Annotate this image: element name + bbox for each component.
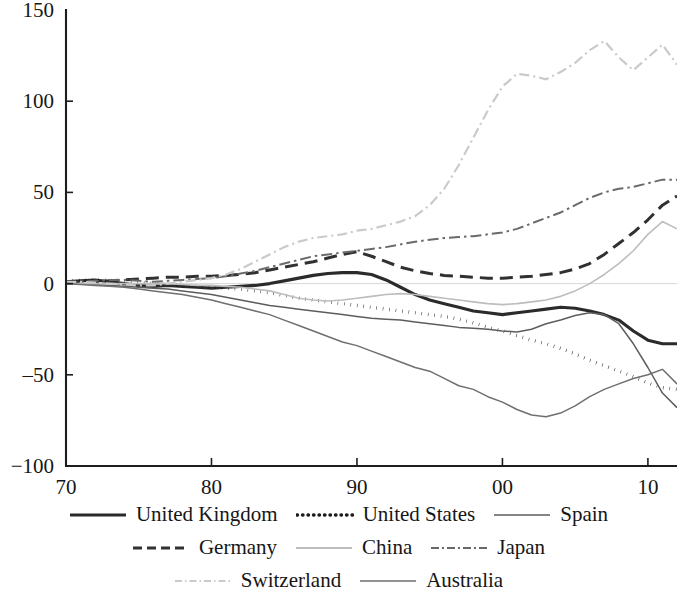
legend-entry[interactable]: Australia — [359, 570, 503, 591]
series-line — [66, 284, 677, 417]
legend-row: United KingdomUnited StatesSpain — [0, 498, 677, 531]
series-line — [66, 283, 677, 408]
y-tick-label: −100 — [11, 454, 54, 478]
legend-row: GermanyChinaJapan — [0, 531, 677, 564]
legend-swatch-icon — [493, 507, 551, 523]
legend-entry[interactable]: Switzerland — [174, 570, 341, 591]
legend-swatch-icon — [430, 540, 488, 556]
legend-row: SwitzerlandAustralia — [0, 564, 677, 597]
chart-axes — [66, 10, 677, 466]
legend-swatch-icon — [174, 573, 232, 589]
x-tick-label: 70 — [56, 475, 77, 499]
legend-label: Germany — [199, 537, 277, 558]
chart-legend: United KingdomUnited StatesSpainGermanyC… — [0, 498, 677, 608]
legend-swatch-icon — [296, 507, 354, 523]
legend-entry[interactable]: Germany — [132, 537, 277, 558]
legend-entry[interactable]: United Kingdom — [69, 504, 278, 525]
legend-label: Switzerland — [241, 570, 341, 591]
legend-swatch-icon — [69, 507, 127, 523]
legend-entry[interactable]: China — [295, 537, 412, 558]
legend-entry[interactable]: Spain — [493, 504, 608, 525]
x-tick-label: 00 — [492, 475, 513, 499]
y-tick-label: ‒50 — [22, 363, 55, 387]
x-tick-label: 90 — [346, 475, 367, 499]
legend-label: United Kingdom — [136, 504, 278, 525]
legend-label: United States — [363, 504, 476, 525]
legend-label: Australia — [426, 570, 503, 591]
legend-swatch-icon — [359, 573, 417, 589]
y-tick-label: 100 — [23, 89, 55, 113]
series-line — [66, 180, 677, 283]
chart-figure: 150100500‒50−1007080900010 United Kingdo… — [0, 0, 677, 608]
series-lines — [66, 41, 677, 417]
series-line — [66, 196, 677, 284]
y-tick-label: 50 — [33, 180, 54, 204]
legend-label: Japan — [497, 537, 545, 558]
legend-label: Spain — [560, 504, 608, 525]
legend-swatch-icon — [295, 540, 353, 556]
x-tick-label: 10 — [637, 475, 658, 499]
line-chart-plot: 150100500‒50−1007080900010 — [0, 0, 677, 500]
axis-tick-labels: 150100500‒50−1007080900010 — [11, 0, 659, 499]
legend-label: China — [362, 537, 412, 558]
x-tick-label: 80 — [201, 475, 222, 499]
legend-entry[interactable]: Japan — [430, 537, 545, 558]
legend-entry[interactable]: United States — [296, 504, 476, 525]
legend-swatch-icon — [132, 540, 190, 556]
y-tick-label: 0 — [44, 272, 55, 296]
y-tick-label: 150 — [23, 0, 55, 22]
